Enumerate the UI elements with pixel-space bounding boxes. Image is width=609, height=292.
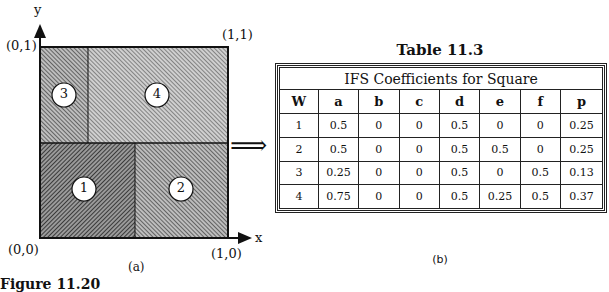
table-cell: 2 xyxy=(280,137,319,161)
table-cell: 0 xyxy=(359,161,399,185)
table-cell: 0.5 xyxy=(520,161,560,185)
table-caption: IFS Coefficients for Square xyxy=(280,68,603,90)
table-cell: 0.5 xyxy=(439,185,479,209)
table-row: 3 0.25 0 0 0.5 0 0.5 0.13 xyxy=(280,161,603,185)
table-cell: 0 xyxy=(359,137,399,161)
table-cell: 0 xyxy=(520,137,560,161)
figure-a-caption: (a) xyxy=(128,260,145,274)
y-axis-label: y xyxy=(34,2,41,17)
table-cell: 3 xyxy=(280,161,319,185)
implies-arrow-icon: ⟹ xyxy=(230,132,267,158)
corner-label-bottom-right: (1,0) xyxy=(211,246,242,261)
x-axis-arrow-icon xyxy=(238,232,252,244)
x-axis-label: x xyxy=(255,230,262,245)
table-cell: 0 xyxy=(359,114,399,138)
table-cell: 0.5 xyxy=(439,137,479,161)
ifs-table-container: IFS Coefficients for Square W a b c d e … xyxy=(275,63,607,213)
table-cell: 0.13 xyxy=(561,161,603,185)
ifs-coefficients-table: IFS Coefficients for Square W a b c d e … xyxy=(279,67,603,209)
table-cell: 0.25 xyxy=(318,161,358,185)
column-header: p xyxy=(561,90,603,114)
column-header: b xyxy=(359,90,399,114)
table-cell: 0.25 xyxy=(480,185,520,209)
table-cell: 0.5 xyxy=(318,137,358,161)
table-cell: 0.5 xyxy=(439,114,479,138)
table-cell: 0 xyxy=(399,161,439,185)
table-cell: 0 xyxy=(399,114,439,138)
column-header: d xyxy=(439,90,479,114)
table-cell: 0.25 xyxy=(561,137,603,161)
column-header: W xyxy=(280,90,319,114)
figure-a: 1 2 3 4 y x (0,1) (1,1) (0,0) (1,0) (a) … xyxy=(0,0,270,285)
table-cell: 1 xyxy=(280,114,319,138)
figure-label: Figure 11.20 xyxy=(0,276,100,292)
table-cell: 0.75 xyxy=(318,185,358,209)
corner-label-top-right: (1,1) xyxy=(222,27,253,42)
column-header: e xyxy=(480,90,520,114)
table-cell: 0.37 xyxy=(561,185,603,209)
corner-label-bottom-left: (0,0) xyxy=(8,242,39,257)
figure-b-caption: (b) xyxy=(425,253,455,266)
table-cell: 0.5 xyxy=(520,185,560,209)
table-cell: 0 xyxy=(399,137,439,161)
region-3-label: 3 xyxy=(56,86,72,101)
table-cell: 0.5 xyxy=(480,137,520,161)
column-header: c xyxy=(399,90,439,114)
table-cell: 0 xyxy=(399,185,439,209)
table-title: Table 11.3 xyxy=(360,41,520,59)
table-cell: 0.25 xyxy=(561,114,603,138)
table-cell: 0.5 xyxy=(318,114,358,138)
table-cell: 0.5 xyxy=(439,161,479,185)
table-row: 1 0.5 0 0 0.5 0 0 0.25 xyxy=(280,114,603,138)
table-cell: 0 xyxy=(480,161,520,185)
table-cell: 0 xyxy=(480,114,520,138)
table-cell: 0 xyxy=(520,114,560,138)
table-cell: 4 xyxy=(280,185,319,209)
table-row: 2 0.5 0 0 0.5 0.5 0 0.25 xyxy=(280,137,603,161)
region-2-label: 2 xyxy=(173,180,189,195)
column-header: f xyxy=(520,90,560,114)
corner-label-top-left: (0,1) xyxy=(6,38,37,53)
table-cell: 0 xyxy=(359,185,399,209)
region-1-label: 1 xyxy=(76,180,92,195)
y-axis-arrow-icon xyxy=(34,24,46,38)
table-header-row: W a b c d e f p xyxy=(280,90,603,114)
column-header: a xyxy=(318,90,358,114)
table-row: 4 0.75 0 0 0.5 0.25 0.5 0.37 xyxy=(280,185,603,209)
region-4-label: 4 xyxy=(149,86,165,101)
